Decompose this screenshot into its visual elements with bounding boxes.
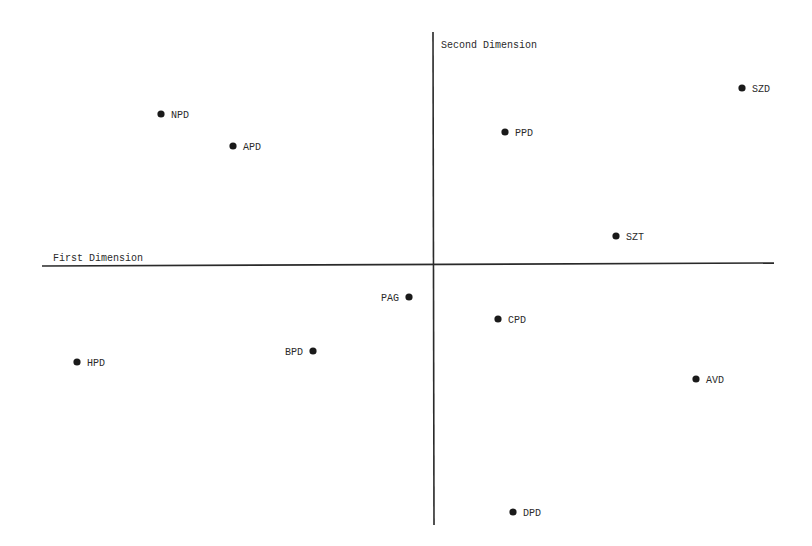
point-marker-icon bbox=[692, 375, 699, 382]
data-point-dpd: DPD bbox=[509, 508, 541, 519]
axes: First Dimension Second Dimension bbox=[42, 32, 774, 525]
point-marker-icon bbox=[157, 110, 164, 117]
data-point-avd: AVD bbox=[692, 375, 724, 386]
data-point-npd: NPD bbox=[157, 110, 189, 121]
point-marker-icon bbox=[405, 293, 412, 300]
data-point-bpd: BPD bbox=[285, 347, 317, 358]
data-point-szd: SZD bbox=[738, 84, 770, 95]
point-label: SZT bbox=[626, 232, 644, 243]
point-label: CPD bbox=[508, 315, 526, 326]
point-marker-icon bbox=[738, 84, 745, 91]
point-marker-icon bbox=[501, 128, 508, 135]
scatter-chart: First Dimension Second Dimension NPDAPDP… bbox=[0, 0, 812, 546]
point-label: PPD bbox=[515, 128, 533, 139]
point-marker-icon bbox=[309, 347, 316, 354]
y-axis-line bbox=[433, 32, 434, 525]
data-point-hpd: HPD bbox=[73, 358, 105, 369]
x-axis-label: First Dimension bbox=[53, 253, 143, 264]
point-label: NPD bbox=[171, 110, 189, 121]
point-marker-icon bbox=[73, 358, 80, 365]
point-marker-icon bbox=[612, 232, 619, 239]
x-axis-line bbox=[42, 263, 774, 266]
data-point-apd: APD bbox=[229, 142, 261, 153]
data-point-ppd: PPD bbox=[501, 128, 533, 139]
point-marker-icon bbox=[494, 315, 501, 322]
data-point-szt: SZT bbox=[612, 232, 644, 243]
point-label: BPD bbox=[285, 347, 303, 358]
data-point-cpd: CPD bbox=[494, 315, 526, 326]
data-points: NPDAPDPPDSZDSZTPAGCPDBPDHPDAVDDPD bbox=[73, 84, 770, 519]
point-marker-icon bbox=[229, 142, 236, 149]
point-label: PAG bbox=[381, 293, 399, 304]
data-point-pag: PAG bbox=[381, 293, 413, 304]
point-label: DPD bbox=[523, 508, 541, 519]
point-label: APD bbox=[243, 142, 261, 153]
point-label: AVD bbox=[706, 375, 724, 386]
point-marker-icon bbox=[509, 508, 516, 515]
y-axis-label: Second Dimension bbox=[441, 40, 537, 51]
point-label: HPD bbox=[87, 358, 105, 369]
point-label: SZD bbox=[752, 84, 770, 95]
